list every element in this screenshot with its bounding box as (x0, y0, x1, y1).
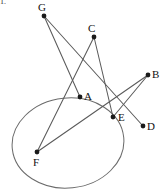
point-dot-d (141, 124, 146, 129)
point-label-d: D (147, 121, 155, 132)
point-dot-g (42, 14, 47, 19)
point-label-a: A (84, 91, 92, 102)
geometry-figure: 1. GCBAEDF (0, 0, 161, 189)
point-dot-a (78, 95, 83, 100)
point-label-g: G (38, 2, 46, 13)
point-label-b: B (152, 69, 159, 80)
segment-ga (44, 16, 80, 97)
point-label-e: E (118, 112, 125, 123)
point-dot-c (92, 35, 97, 40)
point-label-f: F (33, 157, 39, 168)
point-dot-f (35, 150, 40, 155)
point-dot-e (111, 115, 116, 120)
segment-ce (94, 37, 113, 117)
point-label-c: C (88, 23, 95, 34)
figure-canvas (0, 0, 161, 189)
point-dot-b (146, 73, 151, 78)
